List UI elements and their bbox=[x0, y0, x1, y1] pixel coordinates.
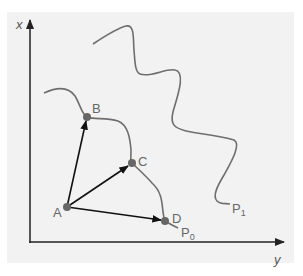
curve-p1 bbox=[93, 26, 237, 204]
label-p1: P1 bbox=[232, 201, 246, 218]
label-p0-main: P bbox=[181, 225, 190, 240]
point-a bbox=[63, 203, 71, 211]
x-axis-label: x bbox=[15, 17, 23, 32]
point-b bbox=[83, 113, 91, 121]
label-b: B bbox=[92, 101, 101, 116]
curve-labels: P0 P1 bbox=[181, 201, 246, 242]
axes: x y y y bbox=[15, 17, 284, 267]
diagram-canvas: x y y y A B C D P0 P1 bbox=[0, 0, 303, 276]
label-c: C bbox=[138, 154, 147, 169]
label-p1-subscript: 1 bbox=[241, 208, 246, 218]
y-axis-label-text: y bbox=[273, 252, 282, 267]
vector-a-c bbox=[67, 166, 128, 207]
vector-a-b bbox=[67, 121, 86, 207]
label-d: D bbox=[172, 211, 181, 226]
point-d bbox=[161, 217, 169, 225]
label-p1-main: P bbox=[232, 201, 241, 216]
vector-a-d bbox=[67, 207, 161, 220]
label-p0: P0 bbox=[181, 225, 195, 242]
label-p0-subscript: 0 bbox=[190, 232, 195, 242]
vectors bbox=[67, 121, 161, 220]
label-a: A bbox=[53, 205, 62, 220]
point-c bbox=[128, 159, 136, 167]
